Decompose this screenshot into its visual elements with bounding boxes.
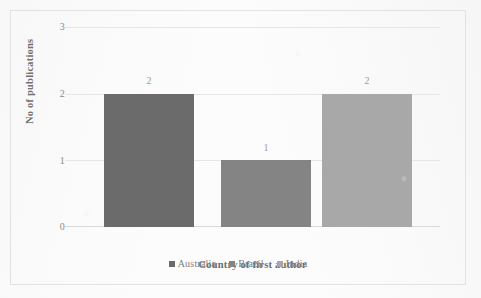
- y-tick-label-0: 0: [35, 221, 65, 232]
- legend-swatch-icon: [229, 261, 235, 267]
- y-tick-label-1: 1: [35, 155, 65, 166]
- bar-brazil[interactable]: [221, 160, 311, 227]
- legend-label-australia: Australia: [178, 258, 216, 269]
- legend-label-brazil: Brazil: [238, 258, 264, 269]
- bar-value-label-india: 2: [347, 75, 387, 86]
- legend-item-brazil[interactable]: Brazil: [229, 258, 264, 269]
- legend-swatch-icon: [277, 261, 283, 267]
- bar-india[interactable]: [322, 94, 412, 227]
- figure-page: No of publications 3 2 1 0 2 1 2 Country…: [0, 0, 481, 298]
- legend-swatch-icon: [169, 261, 175, 267]
- y-tick-label-3: 3: [35, 21, 65, 32]
- gridline-3: [65, 27, 440, 28]
- legend-item-india[interactable]: India: [277, 258, 308, 269]
- chart-legend: Australia Brazil India: [10, 258, 466, 269]
- plot-area: 2 1 2 Country of first author: [65, 27, 440, 227]
- bar-value-label-brazil: 1: [246, 142, 286, 153]
- bar-australia[interactable]: [104, 94, 194, 227]
- y-axis-label-container: No of publications: [30, 60, 46, 200]
- y-tick-label-2: 2: [35, 88, 65, 99]
- bar-value-label-australia: 2: [129, 75, 169, 86]
- legend-item-australia[interactable]: Australia: [169, 258, 216, 269]
- y-axis-label: No of publications: [24, 0, 35, 124]
- legend-label-india: India: [286, 258, 308, 269]
